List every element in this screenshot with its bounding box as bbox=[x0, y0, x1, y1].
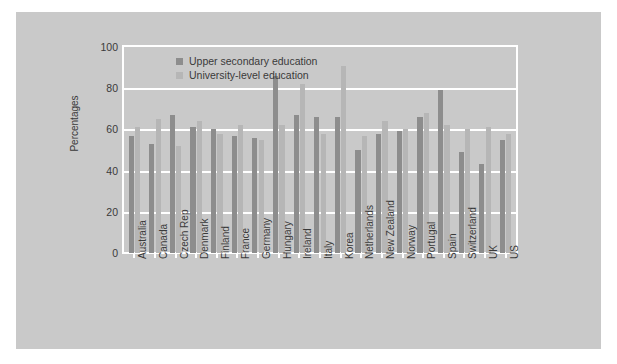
bar bbox=[355, 150, 360, 253]
bar-group bbox=[397, 47, 409, 253]
x-axis-tick bbox=[484, 253, 486, 258]
legend-swatch-icon bbox=[176, 58, 183, 65]
x-axis-tick bbox=[340, 253, 342, 258]
bar bbox=[232, 136, 237, 253]
legend-item: Upper secondary education bbox=[176, 55, 317, 68]
x-axis-tick-label: Finland bbox=[221, 226, 231, 259]
bar bbox=[211, 129, 216, 253]
bar bbox=[341, 66, 346, 253]
x-axis-tick bbox=[133, 253, 135, 258]
x-axis-tick-label: Australia bbox=[138, 220, 148, 259]
bar bbox=[506, 134, 511, 253]
x-axis-tick-label: Switzerland bbox=[468, 207, 478, 259]
x-axis-tick bbox=[381, 253, 383, 258]
bar bbox=[397, 131, 402, 253]
y-axis-tick-label: 100 bbox=[78, 42, 118, 53]
x-axis-tick-label: Korea bbox=[345, 232, 355, 259]
bar bbox=[149, 144, 154, 253]
x-axis-tick bbox=[422, 253, 424, 258]
x-axis-tick bbox=[298, 253, 300, 258]
x-axis-labels: AustraliaCanadaCzech RepDenmarkFinlandFr… bbox=[124, 259, 516, 359]
bar-group bbox=[500, 47, 512, 253]
bar bbox=[417, 117, 422, 253]
legend-label: University-level education bbox=[189, 70, 309, 81]
x-axis-tick bbox=[216, 253, 218, 258]
y-axis-tick-label: 80 bbox=[78, 83, 118, 94]
x-axis-tick-label: Czech Rep bbox=[180, 210, 190, 259]
bar-group bbox=[335, 47, 347, 253]
bar-group bbox=[438, 47, 450, 253]
y-axis-tick-label: 40 bbox=[78, 166, 118, 177]
x-axis-tick-label: Canada bbox=[159, 224, 169, 259]
figure: Percentages 100806040200 AustraliaCanada… bbox=[0, 0, 617, 364]
y-axis: Percentages 100806040200 bbox=[72, 12, 118, 364]
x-axis-tick-label: France bbox=[241, 228, 251, 259]
bar bbox=[486, 127, 491, 253]
chart-panel: Percentages 100806040200 AustraliaCanada… bbox=[16, 12, 601, 349]
x-axis-tick bbox=[463, 253, 465, 258]
x-axis-tick-label: Italy bbox=[324, 241, 334, 259]
bar bbox=[129, 136, 134, 253]
bar bbox=[294, 115, 299, 253]
bar bbox=[376, 134, 381, 253]
bar-group bbox=[479, 47, 491, 253]
bar bbox=[314, 117, 319, 253]
x-axis-tick bbox=[195, 253, 197, 258]
legend-item: University-level education bbox=[176, 69, 317, 82]
x-axis-tick-label: UK bbox=[489, 245, 499, 259]
bar bbox=[273, 76, 278, 253]
bar bbox=[335, 117, 340, 253]
legend-swatch-icon bbox=[176, 72, 183, 79]
bar bbox=[190, 127, 195, 253]
bar bbox=[500, 140, 505, 253]
x-axis-tick-label: Norway bbox=[407, 225, 417, 259]
legend-label: Upper secondary education bbox=[189, 56, 317, 67]
x-axis-tick-label: Portugal bbox=[427, 222, 437, 259]
x-axis-tick bbox=[257, 253, 259, 258]
legend: Upper secondary educationUniversity-leve… bbox=[176, 55, 317, 83]
bar bbox=[438, 90, 443, 253]
x-axis-tick bbox=[154, 253, 156, 258]
x-axis-tick bbox=[319, 253, 321, 258]
bar bbox=[321, 134, 326, 253]
x-axis-tick bbox=[175, 253, 177, 258]
bar bbox=[459, 152, 464, 253]
y-axis-tick-label: 20 bbox=[78, 207, 118, 218]
x-axis-tick-label: Ireland bbox=[303, 228, 313, 259]
x-axis-tick bbox=[236, 253, 238, 258]
x-axis-tick-label: Germany bbox=[262, 218, 272, 259]
x-axis-tick-label: Netherlands bbox=[365, 205, 375, 259]
x-axis-tick-label: Denmark bbox=[200, 218, 210, 259]
bar bbox=[479, 164, 484, 253]
bar-group bbox=[149, 47, 161, 253]
y-axis-tick-label: 0 bbox=[78, 248, 118, 259]
x-axis-tick bbox=[505, 253, 507, 258]
x-axis-tick-label: US bbox=[510, 245, 520, 259]
x-axis-tick bbox=[278, 253, 280, 258]
bar bbox=[252, 138, 257, 253]
y-axis-tick-label: 60 bbox=[78, 124, 118, 135]
bar bbox=[170, 115, 175, 253]
x-axis-tick bbox=[402, 253, 404, 258]
x-axis-tick bbox=[360, 253, 362, 258]
x-axis-tick-label: Spain bbox=[448, 233, 458, 259]
x-axis-tick bbox=[443, 253, 445, 258]
x-axis-tick-label: New Zealand bbox=[386, 200, 396, 259]
x-axis-tick-label: Hungary bbox=[283, 221, 293, 259]
